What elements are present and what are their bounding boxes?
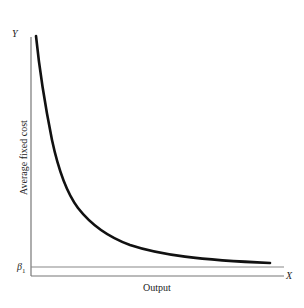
y-axis-title: Average fixed cost [18,113,29,203]
y-axis-symbol: Y [12,28,18,39]
afc-curve [36,36,270,263]
afc-chart: Y X β1 Output Average fixed cost [0,0,304,308]
x-axis-title: Output [143,282,171,293]
x-axis-symbol: X [286,270,292,281]
beta-subscript: 1 [22,267,26,275]
beta-label: β1 [17,261,25,275]
chart-canvas [0,0,304,308]
